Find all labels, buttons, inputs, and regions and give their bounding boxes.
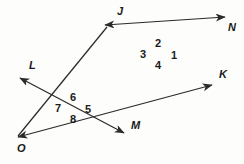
label-J: J: [117, 6, 123, 17]
angle-label-8: 8: [70, 114, 76, 125]
angle-label-3: 3: [140, 49, 146, 60]
label-M: M: [131, 120, 140, 131]
angle-label-4: 4: [155, 60, 161, 71]
ray-J-segment: [18, 27, 107, 136]
label-K: K: [219, 69, 227, 80]
figure-canvas-rays: [0, 0, 244, 164]
angle-label-5: 5: [85, 104, 91, 115]
angle-label-6: 6: [70, 92, 76, 103]
label-N: N: [228, 22, 236, 33]
angle-label-7: 7: [55, 103, 61, 114]
angle-label-1: 1: [171, 50, 177, 61]
geometry-figure: J N L K M O 1 2 3 4 5 6 7 8: [0, 0, 244, 164]
label-L: L: [29, 60, 36, 71]
angle-label-2: 2: [155, 38, 161, 49]
label-O: O: [17, 143, 26, 154]
